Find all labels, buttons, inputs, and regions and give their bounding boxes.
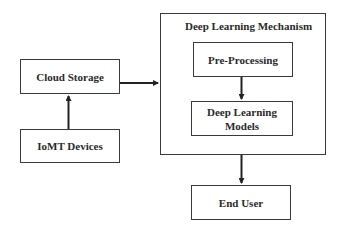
deep-learning-models-node: Deep Learning Models	[191, 101, 293, 136]
deep-learning-mechanism-title: Deep Learning Mechanism	[185, 20, 312, 32]
deep-learning-models-label-line2: Models	[225, 119, 259, 133]
pre-processing-node: Pre-Processing	[193, 42, 293, 77]
iomt-devices-node: IoMT Devices	[20, 129, 120, 163]
iomt-devices-label: IoMT Devices	[37, 139, 102, 153]
pre-processing-label: Pre-Processing	[208, 53, 278, 67]
cloud-storage-node: Cloud Storage	[20, 59, 120, 94]
cloud-storage-label: Cloud Storage	[36, 70, 104, 84]
end-user-node: End User	[191, 185, 291, 220]
end-user-label: End User	[219, 196, 263, 210]
deep-learning-models-label-line1: Deep Learning	[207, 105, 277, 119]
